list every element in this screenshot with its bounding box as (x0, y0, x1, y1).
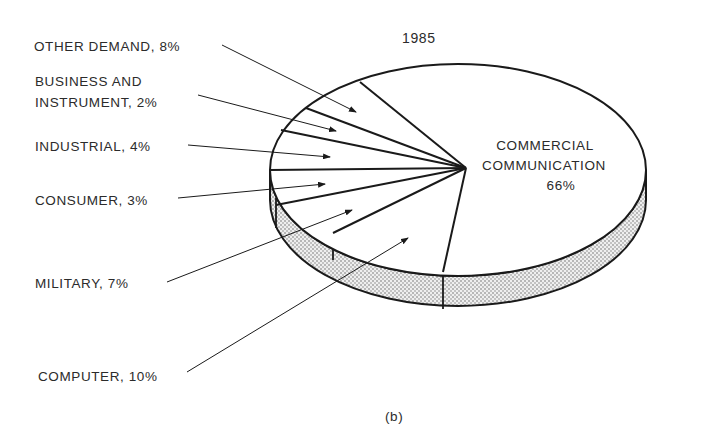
label-business-instrument-1: BUSINESS AND (35, 74, 142, 89)
figure-caption: (b) (385, 409, 403, 424)
label-military: MILITARY, 7% (35, 276, 129, 291)
pie-chart: 1985 COMMERCIAL COMMUNICATION 66% OTHER … (0, 0, 709, 440)
label-other-demand: OTHER DEMAND, 8% (34, 39, 180, 54)
label-consumer: CONSUMER, 3% (35, 193, 148, 208)
label-computer: COMPUTER, 10% (38, 369, 158, 384)
svg-text:66%: 66% (547, 178, 576, 193)
svg-text:COMMUNICATION: COMMUNICATION (482, 158, 606, 173)
label-business-instrument-2: INSTRUMENT, 2% (35, 95, 157, 110)
label-industrial: INDUSTRIAL, 4% (35, 139, 151, 154)
chart-title: 1985 (402, 30, 436, 46)
svg-text:COMMERCIAL: COMMERCIAL (496, 138, 594, 153)
